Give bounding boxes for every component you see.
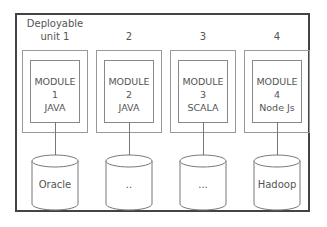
module-number: 4 (253, 88, 301, 101)
database-label: Oracle (31, 179, 79, 190)
unit-label-line1 (242, 17, 312, 30)
module-4: MODULE 4 Node Js (252, 60, 302, 123)
module-2: MODULE 2 JAVA (104, 60, 154, 123)
unit-label-2: 2 (94, 17, 164, 43)
module-3: MODULE 3 SCALA (178, 60, 228, 123)
unit-label-line1 (94, 17, 164, 30)
module-title: MODULE (105, 75, 153, 88)
database-cylinder-1: Oracle (31, 153, 79, 211)
module-title: MODULE (179, 75, 227, 88)
unit-label-line2: 4 (242, 30, 312, 43)
module-language: JAVA (105, 101, 153, 114)
module-number: 2 (105, 88, 153, 101)
deployable-unit-4: MODULE 4 Node Js (244, 50, 310, 133)
database-label: .. (105, 179, 153, 190)
module-number: 1 (31, 88, 79, 101)
module-1: MODULE 1 JAVA (30, 60, 80, 123)
unit-label-line2: unit 1 (20, 30, 90, 43)
module-title: MODULE (253, 75, 301, 88)
database-cylinder-2: .. (105, 153, 153, 211)
module-language: SCALA (179, 101, 227, 114)
unit-label-line2: 3 (168, 30, 238, 43)
unit-label-1: Deployable unit 1 (20, 17, 90, 43)
module-language: Node Js (253, 101, 301, 114)
connector-line (277, 122, 278, 155)
database-label: Hadoop (253, 179, 301, 190)
module-number: 3 (179, 88, 227, 101)
database-cylinder-4: Hadoop (253, 153, 301, 211)
unit-label-line2: 2 (94, 30, 164, 43)
unit-label-line1: Deployable (20, 17, 90, 30)
deployable-unit-1: MODULE 1 JAVA (22, 50, 88, 133)
connector-line (203, 122, 204, 155)
deployable-unit-2: MODULE 2 JAVA (96, 50, 162, 133)
connector-line (129, 122, 130, 155)
unit-label-line1 (168, 17, 238, 30)
unit-label-3: 3 (168, 17, 238, 43)
unit-label-4: 4 (242, 17, 312, 43)
module-title: MODULE (31, 75, 79, 88)
module-language: JAVA (31, 101, 79, 114)
database-label: ... (179, 179, 227, 190)
database-cylinder-3: ... (179, 153, 227, 211)
connector-line (55, 122, 56, 155)
deployable-unit-3: MODULE 3 SCALA (170, 50, 236, 133)
